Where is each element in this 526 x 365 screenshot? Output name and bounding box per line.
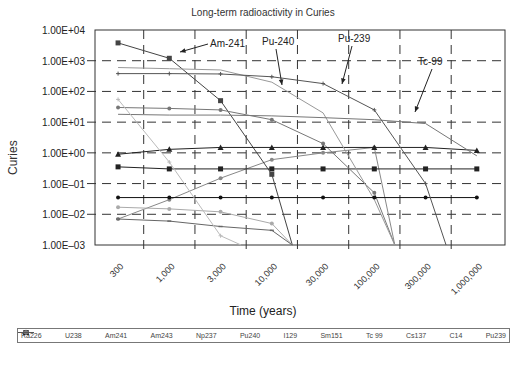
x-tick-label: 100,000 — [352, 261, 382, 291]
legend-item-pu240: Pu240 — [240, 332, 260, 339]
y-tick-label: 1.00E–01 — [42, 179, 85, 190]
chart-plot-area: 1.00E+041.00E+031.00E+021.00E+011.00E+00… — [0, 0, 526, 330]
legend-item-pu239: Pu239 — [486, 332, 506, 339]
chart-legend: Ra226U238Am241Am243Np237Pu240I129Sm151Tc… — [17, 328, 510, 343]
legend-label: U238 — [65, 332, 82, 339]
y-tick-label: 1.00E+04 — [42, 25, 86, 36]
x-tick-label: 1,000,000 — [449, 261, 484, 296]
legend-label: Pu239 — [486, 332, 506, 339]
legend-item-np237: Np237 — [196, 332, 217, 339]
y-tick-label: 1.00E+01 — [42, 117, 86, 128]
x-tick-label: 30,000 — [304, 261, 331, 288]
legend-item-tc99: Tc 99 — [366, 332, 383, 339]
plot-frame — [95, 30, 505, 245]
legend-label: C14 — [450, 332, 463, 339]
legend-label: Np237 — [196, 332, 217, 339]
legend-item-sm151: Sm151 — [320, 332, 342, 339]
y-tick-label: 1.00E+02 — [42, 86, 86, 97]
legend-item-i129: I129 — [284, 332, 298, 339]
y-tick-label: 1.00E+03 — [42, 56, 86, 67]
y-tick-label: 1.00E–02 — [42, 209, 85, 220]
x-tick-label: 1,000 — [154, 261, 177, 284]
legend-label: Sm151 — [320, 332, 342, 339]
legend-item-am243: Am243 — [151, 332, 173, 339]
legend-item-cs137: Cs137 — [406, 332, 426, 339]
svg-text:Am-241: Am-241 — [210, 38, 245, 49]
x-tick-label: 300 — [108, 261, 126, 279]
svg-text:Pu-239: Pu-239 — [338, 33, 371, 44]
x-tick-label: 3,000 — [205, 261, 228, 284]
legend-label: Cs137 — [406, 332, 426, 339]
legend-label: Tc 99 — [366, 332, 383, 339]
legend-label: Am243 — [151, 332, 173, 339]
legend-item-am241: Am241 — [105, 332, 127, 339]
legend-label: Am241 — [105, 332, 127, 339]
y-tick-label: 1.00E–03 — [42, 240, 85, 251]
legend-item-u238: U238 — [65, 332, 82, 339]
svg-text:Pu-240: Pu-240 — [262, 36, 295, 47]
x-tick-label: 10,000 — [253, 261, 280, 288]
x-tick-label: 300,000 — [403, 261, 433, 291]
legend-label: Pu240 — [240, 332, 260, 339]
legend-item-c14: C14 — [450, 332, 463, 339]
legend-label: I129 — [284, 332, 298, 339]
legend-swatch-icon — [18, 329, 34, 336]
y-tick-label: 1.00E+00 — [42, 148, 86, 159]
svg-text:Tc-99: Tc-99 — [418, 56, 443, 67]
